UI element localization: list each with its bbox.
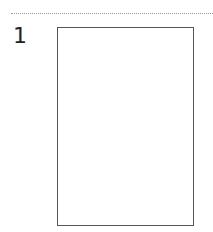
item-number: 1 [13,24,27,48]
dotted-divider [11,13,213,14]
blank-frame [57,27,194,226]
